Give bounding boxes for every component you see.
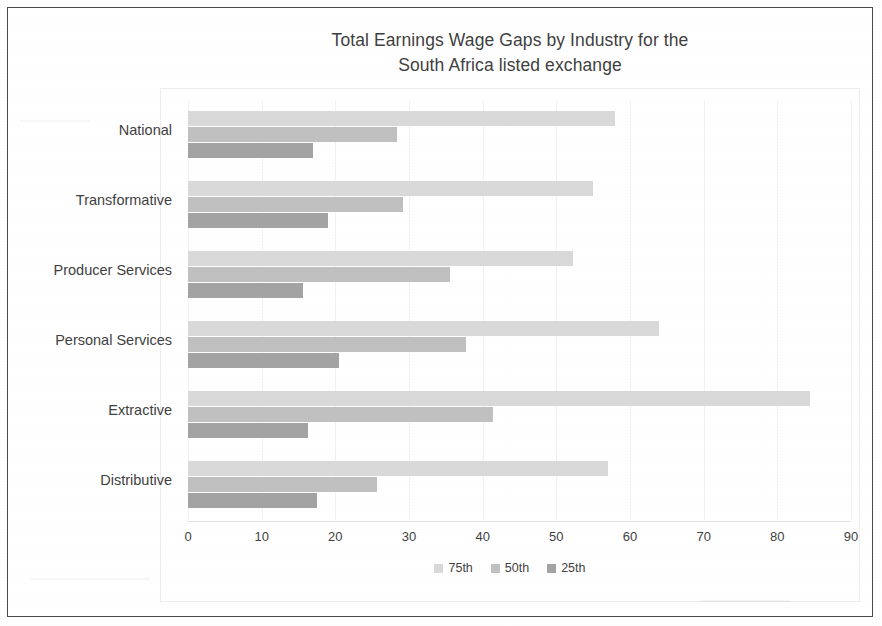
legend-item-50th[interactable]: 50th <box>491 561 529 575</box>
legend-item-25th[interactable]: 25th <box>547 561 585 575</box>
x-axis: 0102030405060708090 <box>188 521 851 551</box>
category-label-national: National <box>119 122 172 138</box>
x-axis-tick-70: 70 <box>696 529 710 544</box>
x-axis-tick-30: 30 <box>402 529 416 544</box>
x-axis-tick-40: 40 <box>475 529 489 544</box>
bar-row: National <box>188 100 851 170</box>
legend-swatch-icon <box>434 564 443 573</box>
bar-25th-extractive[interactable] <box>188 423 308 438</box>
bar-group <box>188 391 851 439</box>
chart-page: Total Earnings Wage Gaps by Industry for… <box>0 0 882 626</box>
bar-75th-producer-services[interactable] <box>188 251 573 266</box>
legend-label: 25th <box>561 561 585 575</box>
bar-75th-distributive[interactable] <box>188 461 608 476</box>
bar-75th-personal-services[interactable] <box>188 321 659 336</box>
legend-swatch-icon <box>547 564 556 573</box>
bar-25th-distributive[interactable] <box>188 493 317 508</box>
x-axis-tick-60: 60 <box>623 529 637 544</box>
scan-artifact <box>20 120 90 122</box>
bar-group <box>188 111 851 159</box>
category-label-extractive: Extractive <box>108 402 172 418</box>
x-axis-tick-90: 90 <box>844 529 858 544</box>
bar-50th-national[interactable] <box>188 127 397 142</box>
category-label-personal-services: Personal Services <box>55 332 172 348</box>
category-label-transformative: Transformative <box>76 192 172 208</box>
bar-25th-national[interactable] <box>188 143 313 158</box>
gridline <box>851 100 852 520</box>
legend-label: 75th <box>448 561 472 575</box>
x-axis-tick-10: 10 <box>254 529 268 544</box>
bar-75th-extractive[interactable] <box>188 391 810 406</box>
bar-row: Extractive <box>188 380 851 450</box>
bar-row: Transformative <box>188 170 851 240</box>
x-axis-line <box>187 521 851 522</box>
bar-50th-extractive[interactable] <box>188 407 493 422</box>
bar-50th-transformative[interactable] <box>188 197 403 212</box>
x-axis-tick-0: 0 <box>184 529 191 544</box>
bar-25th-personal-services[interactable] <box>188 353 339 368</box>
scan-artifact <box>700 600 790 602</box>
bar-group <box>188 251 851 299</box>
chart-title-line-1: Total Earnings Wage Gaps by Industry for… <box>160 28 860 53</box>
bar-25th-producer-services[interactable] <box>188 283 303 298</box>
bar-row: Producer Services <box>188 240 851 310</box>
category-label-producer-services: Producer Services <box>54 262 172 278</box>
legend-swatch-icon <box>491 564 500 573</box>
bar-75th-transformative[interactable] <box>188 181 593 196</box>
x-axis-tick-20: 20 <box>328 529 342 544</box>
x-axis-tick-50: 50 <box>549 529 563 544</box>
bar-50th-personal-services[interactable] <box>188 337 466 352</box>
bar-row: Distributive <box>188 450 851 520</box>
plot-area: NationalTransformativeProducer ServicesP… <box>188 100 851 520</box>
scan-artifact <box>30 578 150 580</box>
bar-group <box>188 321 851 369</box>
bar-group <box>188 181 851 229</box>
chart-title: Total Earnings Wage Gaps by Industry for… <box>160 28 860 78</box>
bar-row: Personal Services <box>188 310 851 380</box>
legend-label: 50th <box>505 561 529 575</box>
bar-75th-national[interactable] <box>188 111 615 126</box>
bar-group <box>188 461 851 509</box>
bar-50th-distributive[interactable] <box>188 477 377 492</box>
bar-25th-transformative[interactable] <box>188 213 328 228</box>
x-axis-tick-80: 80 <box>770 529 784 544</box>
chart-title-line-2: South Africa listed exchange <box>160 53 860 78</box>
category-label-distributive: Distributive <box>100 472 172 488</box>
bar-50th-producer-services[interactable] <box>188 267 450 282</box>
legend-item-75th[interactable]: 75th <box>434 561 472 575</box>
legend: 75th50th25th <box>160 561 860 575</box>
